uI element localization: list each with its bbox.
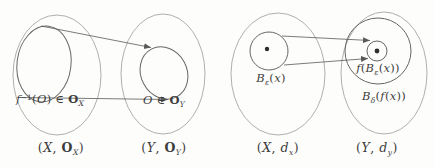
eps-ball-outline bbox=[250, 32, 288, 70]
metric-arrow-top bbox=[282, 36, 370, 41]
delta-ball-label: Bδ(f(x)) bbox=[362, 90, 406, 105]
figure-canvas: f−1(O) ∈ OX O ∈ OY Bε(x) f(Bε(x)) Bδ(f(x… bbox=[0, 0, 435, 168]
point-x-dot bbox=[265, 47, 269, 51]
image-ball-label: f(Bε(x)) bbox=[356, 62, 400, 77]
point-fx-dot bbox=[375, 49, 380, 54]
preimage-set-label: f−1(O) ∈ OX bbox=[16, 93, 84, 108]
caption-metric-Y: (Y, dy) bbox=[356, 141, 398, 157]
eps-ball-label: Bε(x) bbox=[256, 72, 285, 87]
space-Y-topology-outline bbox=[121, 14, 205, 134]
caption-topology-X: (X, OX) bbox=[38, 141, 84, 157]
caption-topology-Y: (Y, OY) bbox=[141, 141, 186, 157]
caption-metric-X: (X, dx) bbox=[257, 141, 299, 157]
space-X-topology-outline bbox=[13, 15, 101, 135]
open-set-label: O ∈ OY bbox=[143, 94, 185, 109]
